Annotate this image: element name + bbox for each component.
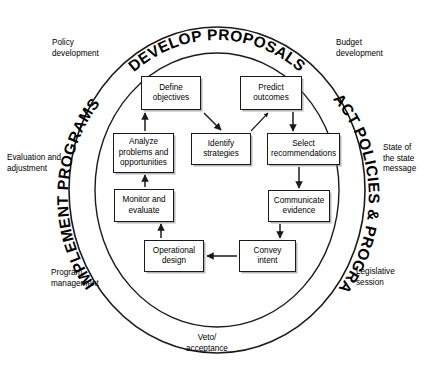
outer-label-veto-acceptance: Veto/ acceptance bbox=[172, 333, 242, 354]
node-select-recommendations[interactable]: Select recommendations bbox=[267, 133, 340, 165]
diagram-canvas: DEVELOP PROPOSALS IMPLEMENT PROGRAMS ENA… bbox=[0, 0, 435, 365]
outer-label-state-of-the-state-message: State of the state message bbox=[383, 143, 416, 175]
outer-label-policy-development: Policy development bbox=[52, 38, 99, 59]
outer-label-program-management: Program management bbox=[51, 268, 99, 289]
arrow-identify-to-predict bbox=[251, 113, 268, 131]
node-analyze-problems-and-opportunities[interactable]: Analyze problems and opportunities bbox=[113, 133, 174, 173]
node-operational-design[interactable]: Operational design bbox=[144, 240, 204, 272]
outer-label-evaluation-and-adjustment: Evaluation and adjustment bbox=[7, 153, 61, 174]
ring-label-develop-proposals: DEVELOP PROPOSALS bbox=[125, 26, 309, 75]
outer-label-legislative-session: Legislative session bbox=[356, 267, 395, 288]
node-predict-outcomes[interactable]: Predict outcomes bbox=[240, 76, 302, 110]
arrow-define-to-identify bbox=[204, 113, 221, 130]
outer-label-budget-development: Budget development bbox=[336, 38, 383, 59]
node-communicate-evidence[interactable]: Communicate evidence bbox=[268, 190, 330, 222]
node-monitor-and-evaluate[interactable]: Monitor and evaluate bbox=[114, 189, 174, 222]
node-define-objectives[interactable]: Define objectives bbox=[141, 76, 201, 110]
node-convey-intent[interactable]: Convey intent bbox=[239, 240, 296, 272]
node-identify-strategies[interactable]: Identify strategies bbox=[191, 133, 251, 165]
